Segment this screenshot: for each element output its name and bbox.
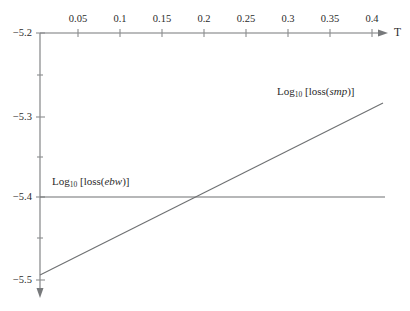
x-tick-label: 0.1 <box>113 14 126 25</box>
x-tick-label: 0.05 <box>69 14 87 25</box>
x-tick-label: 0.25 <box>237 14 255 25</box>
series-annotation-smp-prefix: Log <box>277 85 295 97</box>
series-annotation-ebw-suffix: )] <box>122 175 129 187</box>
series-annotation-smp-name: smp <box>329 85 347 97</box>
x-tick-label: 0.35 <box>321 14 339 25</box>
plot-canvas <box>0 0 410 311</box>
x-axis-label: T <box>394 27 401 39</box>
series-annotation-ebw-mid: [loss( <box>77 175 104 187</box>
x-tick-label: 0.3 <box>281 14 294 25</box>
x-tick-label: 0.4 <box>365 14 378 25</box>
series-annotation-smp: Log10 [loss(smp)] <box>277 86 355 97</box>
x-tick-label: 0.2 <box>197 14 210 25</box>
series-annotation-ebw: Log10 [loss(ebw)] <box>52 176 130 187</box>
y-axis-arrow-icon <box>37 288 44 298</box>
y-tick-label: −5.2 <box>13 28 32 39</box>
series-annotation-ebw-subscript: 10 <box>70 180 78 189</box>
x-tick-label: 0.15 <box>153 14 171 25</box>
series-annotation-smp-subscript: 10 <box>295 90 303 99</box>
series-annotation-smp-mid: [loss( <box>302 85 329 97</box>
series-annotation-smp-suffix: )] <box>347 85 354 97</box>
y-tick-label: −5.5 <box>13 275 32 286</box>
chart-figure: 0.05 0.1 0.15 0.2 0.25 0.3 0.35 0.4 −5.2… <box>0 0 410 311</box>
x-axis-arrow-icon <box>378 30 388 37</box>
series-line-smp <box>40 103 383 275</box>
series-annotation-ebw-name: ebw <box>104 175 122 187</box>
y-tick-label: −5.4 <box>13 192 32 203</box>
series-annotation-ebw-prefix: Log <box>52 175 70 187</box>
y-tick-label: −5.3 <box>13 112 32 123</box>
